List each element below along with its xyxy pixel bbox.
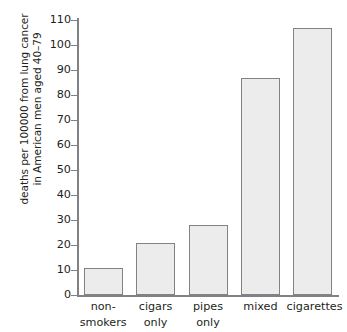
y-axis-tick-label: 80 — [31, 89, 71, 100]
x-axis-label-cigarettes: cigarettes — [287, 299, 339, 315]
x-axis-label-line: pipes — [182, 299, 234, 315]
y-axis-tick-label: 50 — [31, 164, 71, 175]
y-axis-tick-label: 100 — [31, 39, 71, 50]
bar-pipes-only — [189, 225, 228, 295]
y-axis-tick-label: 20 — [31, 239, 71, 250]
bar-cigarettes — [293, 28, 332, 296]
y-axis-tick-label: 70 — [31, 114, 71, 125]
x-axis-label-mixed: mixed — [234, 299, 286, 315]
x-axis-label-line: cigarettes — [287, 299, 339, 315]
x-axis-label-line: mixed — [234, 299, 286, 315]
y-axis-tick-label: 10 — [31, 264, 71, 275]
y-axis-tick-label: 60 — [31, 139, 71, 150]
y-axis-tick-labels: 0102030405060708090100110 — [27, 20, 71, 295]
y-axis-tick-label: 30 — [31, 214, 71, 225]
x-axis-label-cigars-only: cigarsonly — [129, 299, 181, 330]
y-axis-tick-label: 0 — [31, 289, 71, 300]
x-axis-label-non-smokers: non-smokers — [77, 299, 129, 330]
x-axis-label-line: only — [182, 315, 234, 331]
bar-chart: deaths per 100000 from lung cancer in Am… — [0, 0, 347, 332]
y-axis-tick — [71, 295, 77, 296]
y-axis-tick-label: 90 — [31, 64, 71, 75]
x-axis-label-line: only — [129, 315, 181, 331]
bar-cigars-only — [136, 243, 175, 296]
plot-area — [77, 20, 339, 295]
x-axis-label-pipes-only: pipesonly — [182, 299, 234, 330]
x-axis-label-line: non- — [77, 299, 129, 315]
x-axis-label-line: cigars — [129, 299, 181, 315]
y-axis-tick-label: 110 — [31, 14, 71, 25]
y-axis-tick-label: 40 — [31, 189, 71, 200]
x-axis-line — [77, 295, 339, 297]
bar-mixed — [241, 78, 280, 296]
x-axis-label-line: smokers — [77, 315, 129, 331]
x-axis-category-labels: non-smokerscigarsonlypipesonlymixedcigar… — [77, 299, 339, 332]
bar-non-smokers — [84, 268, 123, 296]
